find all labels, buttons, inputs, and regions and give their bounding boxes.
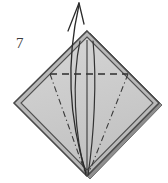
diagram-canvas: 7 <box>0 0 168 183</box>
origami-diagram-figure: 7 <box>0 0 168 183</box>
step-number-label: 7 <box>16 35 24 51</box>
